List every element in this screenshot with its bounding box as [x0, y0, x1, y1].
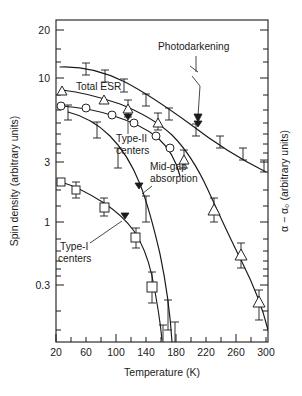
annotation-mid-gap-label-line1: Mid-gap	[150, 161, 187, 172]
y-axis-title-right: α − α₀ (arbitrary units)	[278, 130, 290, 232]
annotation-total-esr-label: Total ESR	[76, 81, 121, 92]
annotation-type-i-label-line1: Type-I	[60, 241, 88, 252]
y-axis-title-left: Spin density (arbitrary units)	[8, 116, 20, 247]
annotation-type-i-label-line2: centers	[58, 253, 91, 264]
x-axis-labels: 20 60 100 140 180 220 260 300	[50, 346, 275, 358]
annotation-type-i: Type-I centers	[58, 221, 122, 264]
total-esr-markers	[57, 86, 265, 320]
y-tick-label-3: 3	[44, 156, 50, 168]
x-tick-label-300: 300	[257, 346, 275, 358]
y-axis-right-ticks	[260, 30, 268, 330]
x-axis-title: Temperature (K)	[124, 366, 200, 378]
annotation-type-ii-label-line2: centers	[116, 145, 149, 156]
y-tick-label-1: 1	[44, 216, 50, 228]
chart-svg: 20 10 3 1 0.3	[0, 0, 302, 396]
series-photodarkening	[60, 63, 268, 172]
y-tick-label-10: 10	[38, 72, 50, 84]
x-tick-label-20: 20	[50, 346, 62, 358]
annotation-type-ii-label-line1: Type-II	[116, 133, 147, 144]
annotation-total-esr: Total ESR	[76, 81, 121, 92]
x-tick-label-100: 100	[107, 346, 125, 358]
annotation-photodarkening-label: Photodarkening	[158, 41, 230, 52]
y-tick-label-20: 20	[38, 24, 50, 36]
annotation-mid-gap: Mid-gap absorption	[142, 161, 198, 194]
annotation-mid-gap-label-line2: absorption	[150, 173, 198, 184]
figure-container: 20 10 3 1 0.3	[0, 0, 302, 396]
series-total-esr	[57, 86, 268, 330]
x-tick-label-140: 140	[137, 346, 155, 358]
x-tick-label-260: 260	[227, 346, 245, 358]
x-tick-label-60: 60	[80, 346, 92, 358]
x-tick-label-220: 220	[197, 346, 215, 358]
y-tick-label-0.3: 0.3	[35, 279, 50, 291]
x-tick-label-180: 180	[167, 346, 185, 358]
y-axis-left-labels: 20 10 3 1 0.3	[35, 24, 50, 291]
